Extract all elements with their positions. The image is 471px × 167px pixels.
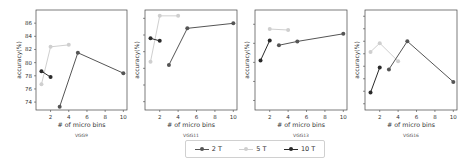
subplot-title: VGG11 (183, 133, 199, 138)
x-tick-label: 6 (415, 114, 419, 120)
x-tick-label: 10 (450, 114, 457, 120)
x-tick-label: 2 (49, 114, 53, 120)
line-marker-icon (284, 146, 298, 152)
x-tick-label: 4 (176, 114, 180, 120)
data-point (451, 80, 455, 84)
x-tick-label: 10 (340, 114, 347, 120)
x-axis-label: # of micro bins (387, 121, 435, 128)
series-line-10t (371, 68, 380, 93)
series-line-2t (60, 53, 124, 107)
subplot-title: VGG9 (75, 133, 88, 138)
data-point (277, 43, 281, 47)
x-tick-label: 6 (195, 114, 199, 120)
data-point (167, 63, 171, 67)
x-tick-label: 8 (103, 114, 107, 120)
legend-label: 5 T (256, 145, 266, 153)
data-point (378, 66, 382, 70)
data-point (49, 75, 53, 79)
x-tick-label: 10 (120, 114, 127, 120)
data-point (58, 105, 62, 109)
data-point (49, 45, 53, 49)
series-line-5t (41, 45, 68, 84)
x-tick-label: 2 (268, 114, 272, 120)
data-point (39, 69, 43, 73)
axes-frame (36, 10, 127, 110)
data-point (396, 59, 400, 63)
axes-frame (255, 10, 347, 110)
series-line-5t (270, 29, 288, 30)
legend-item-2t: 2 T (195, 145, 222, 153)
y-axis-label: accuracy(%) (353, 41, 361, 78)
subplot-vgg16: 246810# of micro binsaccuracy(%)VGG16 (353, 10, 457, 138)
x-axis-label: # of micro bins (167, 121, 215, 128)
y-axis-label: accuracy(%) (15, 41, 23, 78)
x-tick-label: 2 (378, 114, 382, 120)
subplot-title: VGG16 (403, 133, 419, 138)
data-point (286, 28, 290, 32)
legend-item-10t: 10 T (284, 145, 315, 153)
subplot-vgg13: 246810# of micro binsaccuracy(%)VGG13 (243, 10, 347, 138)
y-tick-label: 80 (25, 60, 32, 66)
line-marker-icon (195, 146, 209, 152)
data-point (176, 14, 180, 18)
data-point (295, 39, 299, 43)
y-tick-label: 74 (25, 99, 32, 105)
data-point (405, 39, 409, 43)
x-tick-label: 6 (85, 114, 89, 120)
data-point (369, 50, 373, 54)
series-line-5t (371, 43, 399, 61)
x-axis-label: # of micro bins (57, 121, 105, 128)
x-tick-label: 6 (305, 114, 309, 120)
x-tick-label: 4 (67, 114, 71, 120)
x-tick-label: 10 (230, 114, 237, 120)
x-tick-label: 4 (286, 114, 290, 120)
axes-frame (365, 10, 457, 110)
x-tick-label: 8 (213, 114, 217, 120)
y-tick-label: 86 (25, 20, 32, 26)
data-point (67, 43, 71, 47)
line-marker-icon (239, 146, 253, 152)
y-axis-label: accuracy(%) (243, 41, 251, 78)
data-point (149, 60, 153, 64)
x-tick-label: 8 (323, 114, 327, 120)
y-tick-label: 78 (25, 73, 32, 79)
data-point (378, 41, 382, 45)
subplot-title: VGG13 (293, 133, 309, 138)
series-line-10t (261, 40, 270, 60)
legend-item-5t: 5 T (239, 145, 266, 153)
subplot-vgg11: 246810# of micro binsaccuracy(%)VGG11 (133, 10, 237, 138)
data-point (387, 67, 391, 71)
y-axis-label: accuracy(%) (133, 41, 141, 78)
y-tick-label: 84 (25, 33, 32, 39)
legend: 2 T 5 T 10 T (185, 140, 325, 158)
y-tick-label: 82 (25, 46, 32, 52)
y-tick-label: 76 (25, 86, 32, 92)
data-point (259, 58, 263, 62)
legend-label: 10 T (301, 145, 315, 153)
x-tick-label: 4 (396, 114, 400, 120)
x-tick-label: 8 (433, 114, 437, 120)
axes-frame (145, 10, 237, 110)
series-line-2t (279, 34, 343, 45)
data-point (121, 71, 125, 75)
data-point (39, 82, 43, 86)
data-point (369, 91, 373, 95)
data-point (158, 39, 162, 43)
subplot-vgg9: 24681074767880828486# of micro binsaccur… (15, 10, 127, 138)
x-tick-label: 2 (158, 114, 162, 120)
x-axis-label: # of micro bins (277, 121, 325, 128)
data-point (158, 14, 162, 18)
series-line-2t (169, 23, 233, 65)
data-point (341, 32, 345, 36)
data-point (185, 26, 189, 30)
data-point (231, 21, 235, 25)
data-point (268, 38, 272, 42)
legend-label: 2 T (212, 145, 222, 153)
data-point (268, 27, 272, 31)
data-point (149, 36, 153, 40)
data-point (76, 51, 80, 55)
